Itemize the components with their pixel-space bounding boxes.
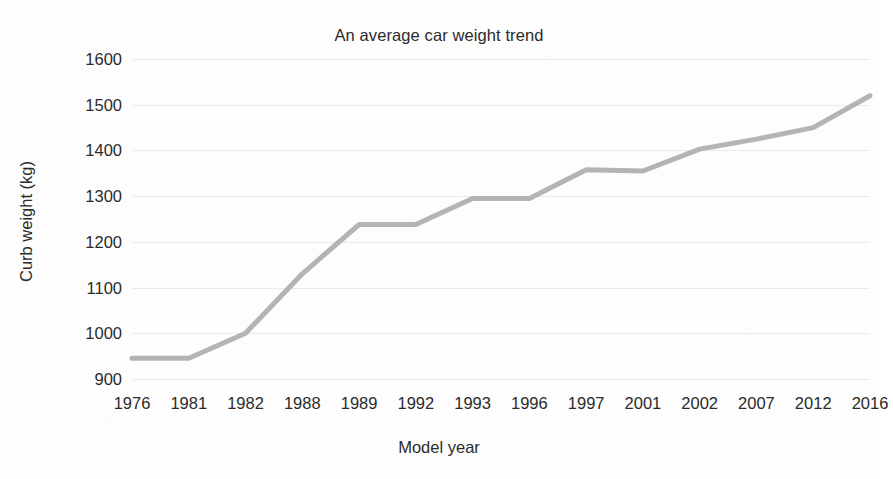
- y-tick-label: 1100: [62, 278, 122, 297]
- x-tick-label: 2012: [783, 394, 843, 413]
- x-tick-label: 2007: [726, 394, 786, 413]
- x-tick-label: 1988: [272, 394, 332, 413]
- x-tick-label: 2001: [613, 394, 673, 413]
- y-tick-label: 1400: [62, 141, 122, 160]
- x-tick-label: 1976: [102, 394, 162, 413]
- x-tick-label: 1997: [556, 394, 616, 413]
- x-tick-label: 2016: [840, 394, 893, 413]
- x-tick-label: 1992: [386, 394, 446, 413]
- y-tick-label: 1000: [62, 324, 122, 343]
- x-tick-label: 1996: [499, 394, 559, 413]
- x-tick-label: 1993: [443, 394, 503, 413]
- y-tick-label: 1600: [62, 50, 122, 69]
- x-tick-label: 1982: [216, 394, 276, 413]
- y-tick-label: 1200: [62, 232, 122, 251]
- series-line-curb-weight: [132, 50, 870, 388]
- y-tick-label: 1500: [62, 95, 122, 114]
- x-axis-ticks: 1976198119821988198919921993199619972001…: [132, 394, 870, 420]
- x-tick-label: 2002: [670, 394, 730, 413]
- chart-title: An average car weight trend: [0, 26, 878, 45]
- y-axis-ticks: 9001000110012001300140015001600: [58, 50, 122, 388]
- y-tick-label: 1300: [62, 187, 122, 206]
- plot-area: [132, 50, 870, 388]
- x-tick-label: 1981: [159, 394, 219, 413]
- x-axis-label: Model year: [0, 438, 878, 457]
- x-tick-label: 1989: [329, 394, 389, 413]
- y-axis-label: Curb weight (kg): [17, 122, 36, 322]
- y-tick-label: 900: [62, 369, 122, 388]
